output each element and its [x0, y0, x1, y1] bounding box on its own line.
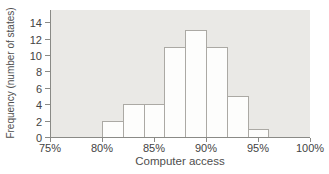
histogram-bar	[123, 104, 145, 137]
y-tick-mark	[45, 39, 50, 40]
y-tick-mark	[45, 22, 50, 23]
y-tick-mark	[45, 121, 50, 122]
x-axis-title: Computer access	[50, 155, 310, 167]
y-tick-label: 6	[14, 83, 42, 95]
plot-area	[50, 10, 310, 138]
y-tick-label: 14	[14, 17, 42, 29]
x-tick-label: 100%	[288, 142, 329, 154]
y-tick-label: 2	[14, 116, 42, 128]
histogram-bar	[248, 129, 270, 137]
y-tick-mark	[45, 71, 50, 72]
x-tick-label: 80%	[80, 142, 124, 154]
x-tick-label: 90%	[184, 142, 228, 154]
y-tick-mark	[45, 55, 50, 56]
histogram-bar	[185, 30, 207, 137]
y-tick-mark	[45, 88, 50, 89]
histogram-bar	[102, 121, 124, 137]
y-tick-mark	[45, 104, 50, 105]
x-tick-label: 85%	[132, 142, 176, 154]
histogram-bar	[144, 104, 166, 137]
y-tick-label: 8	[14, 66, 42, 78]
histogram-bar	[227, 96, 249, 137]
y-tick-label: 4	[14, 99, 42, 111]
x-tick-label: 95%	[236, 142, 280, 154]
y-tick-label: 10	[14, 50, 42, 62]
histogram-bar	[164, 47, 186, 137]
x-tick-label: 75%	[28, 142, 72, 154]
histogram-chart: Frequency (number of states) Computer ac…	[0, 0, 329, 174]
y-tick-label: 12	[14, 34, 42, 46]
histogram-bar	[206, 47, 228, 137]
